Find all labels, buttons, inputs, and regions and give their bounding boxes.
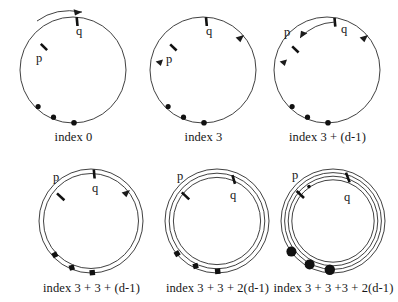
pointer-p-tick	[41, 44, 47, 50]
marker-square	[215, 268, 221, 274]
pointer-p-label: p	[284, 25, 290, 39]
marker-dot	[290, 104, 295, 109]
panel-2-drawing: p q	[138, 4, 269, 135]
ring-inner-1	[285, 173, 382, 270]
panel-index-3-plus-d-1: p q index 3 + (d-1)	[262, 4, 393, 155]
panel-caption: index 3 + (d-1)	[262, 130, 393, 144]
ring-inner-1	[169, 173, 265, 269]
pointer-p-label: p	[166, 52, 172, 66]
pointer-p-label: p	[36, 51, 42, 65]
ring-direction-arrow-icon	[360, 35, 368, 42]
panel-4-drawing: p q	[26, 155, 157, 286]
pointer-q-label: q	[341, 22, 348, 36]
pointer-q-label: q	[92, 181, 99, 195]
pointer-p-label: p	[53, 170, 59, 184]
pointer-p-tick	[170, 44, 176, 50]
pointer-p-tick	[57, 193, 64, 200]
panel-5-drawing: p q	[152, 155, 283, 286]
marker-dot-small	[307, 185, 311, 189]
pointer-q-tick	[346, 173, 350, 183]
panel-index-3-3-d-1: p q index 3 + 3 + (d-1)	[26, 155, 157, 302]
pointer-q-label: q	[206, 24, 213, 38]
panel-caption: index 0	[8, 130, 139, 144]
panel-caption: index 3 + 3 + 2(d-1)	[152, 281, 283, 295]
marker-dot	[71, 120, 77, 126]
ring-direction-arrow-icon	[156, 60, 163, 66]
pointer-p-tick	[182, 192, 189, 199]
marker-square	[89, 270, 95, 276]
marker-dot	[51, 115, 56, 120]
ring-inner-1	[44, 174, 139, 269]
marker-dot	[166, 104, 171, 109]
ring-direction-arrow-icon	[122, 190, 130, 197]
ring-inner-3	[292, 180, 374, 262]
panel-6-drawing: p q	[268, 155, 398, 286]
return-arc	[300, 22, 335, 38]
pointer-q-label: q	[344, 190, 351, 204]
marker-square	[51, 251, 58, 258]
panel-3-drawing: p q	[262, 4, 393, 135]
ring-direction-arrow-icon	[236, 35, 244, 42]
marker-square	[192, 263, 198, 269]
panel-index-3: p q index 3	[138, 4, 269, 155]
panel-index-3-3-2d-1: p q index 3 + 3 + 2(d-1)	[152, 155, 283, 302]
marker-dot-large	[325, 265, 335, 275]
rotation-arrow-head-icon	[74, 9, 82, 15]
pointer-p-tick	[297, 191, 304, 198]
pointer-q-label: q	[230, 188, 237, 202]
marker-dot	[305, 115, 310, 120]
pointer-p-label: p	[177, 169, 183, 183]
panel-index-0: p q index 0	[8, 4, 139, 155]
pointer-p-label: p	[292, 168, 298, 182]
panel-caption: index 3	[138, 130, 269, 144]
marker-dot-large	[286, 247, 296, 257]
pointer-q-tick	[94, 170, 95, 179]
marker-dot	[325, 120, 331, 126]
marker-dot	[181, 115, 186, 120]
panel-index-3-3-3-2d-1: p q index 3 + 3 +3 + 2(d-1)	[268, 155, 398, 302]
panel-caption: index 3 + 3 + (d-1)	[26, 281, 157, 295]
ring-outer	[281, 169, 385, 273]
marker-dot	[36, 104, 41, 109]
pointer-p-tick	[292, 46, 298, 52]
panel-caption: index 3 + 3 +3 + 2(d-1)	[268, 281, 398, 295]
ring-outer	[165, 169, 269, 273]
pointer-q-label: q	[76, 24, 83, 38]
ring-inner-2	[173, 177, 260, 264]
marker-dot-large	[305, 259, 315, 269]
ring-direction-arrow-icon	[280, 60, 287, 66]
ring-inner-2	[288, 176, 378, 266]
panel-1-drawing: p q	[8, 4, 139, 135]
marker-dot	[201, 120, 207, 126]
